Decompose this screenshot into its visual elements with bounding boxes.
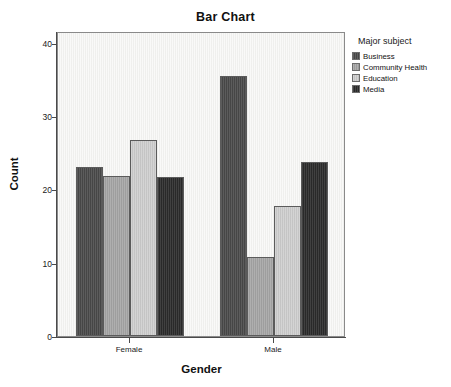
x-axis-tick-mark: [129, 338, 130, 343]
bar: [130, 140, 157, 336]
bar: [220, 76, 247, 336]
x-axis-tick-mark: [273, 338, 274, 343]
bar-texture: [302, 163, 327, 335]
bar: [301, 162, 328, 336]
y-axis-tick-label: 10: [26, 259, 52, 269]
y-axis-tick-label: 20: [26, 185, 52, 195]
legend-entry: Business: [352, 51, 451, 61]
y-axis-tick-label: 0: [26, 332, 52, 342]
legend-label: Community Health: [363, 63, 427, 72]
legend-swatch-icon: [352, 74, 360, 82]
legend: Major subject BusinessCommunity HealthEd…: [352, 36, 451, 95]
bar-texture: [275, 207, 300, 335]
legend-title: Major subject: [358, 36, 451, 46]
y-axis-tick-label: 40: [26, 39, 52, 49]
bar: [247, 257, 274, 336]
bar-texture: [77, 168, 102, 335]
y-axis-tick-mark: [52, 190, 57, 191]
bar: [76, 167, 103, 336]
bar-texture: [221, 77, 246, 335]
legend-swatch-icon: [352, 85, 360, 93]
legend-label: Media: [363, 85, 384, 94]
bar-chart: Bar Chart 010203040 Count FemaleMale Gen…: [0, 0, 451, 387]
x-axis-title: Gender: [57, 363, 346, 375]
y-axis-line: [56, 32, 57, 338]
legend-entry: Media: [352, 84, 451, 94]
legend-label: Education: [363, 74, 398, 83]
legend-entry: Community Health: [352, 62, 451, 72]
bar-texture: [131, 141, 156, 335]
bar-texture: [104, 177, 129, 335]
legend-swatch-texture: [353, 53, 359, 59]
legend-entries: BusinessCommunity HealthEducationMedia: [352, 51, 451, 94]
y-axis-tick-mark: [52, 44, 57, 45]
bar: [103, 176, 130, 336]
bar: [157, 177, 184, 336]
chart-title: Bar Chart: [0, 10, 451, 24]
legend-swatch-texture: [353, 75, 359, 81]
x-axis-tick-label: Female: [94, 345, 164, 354]
plot-area: [57, 32, 345, 337]
legend-entry: Education: [352, 73, 451, 83]
y-axis-tick-mark: [52, 264, 57, 265]
x-axis-line: [57, 337, 346, 338]
legend-label: Business: [363, 52, 395, 61]
y-axis-tick-label: 30: [26, 112, 52, 122]
bar-texture: [158, 178, 183, 335]
x-axis-tick-label: Male: [238, 345, 308, 354]
legend-swatch-icon: [352, 63, 360, 71]
legend-swatch-texture: [353, 64, 359, 70]
bar-texture: [248, 258, 273, 335]
y-axis-tick-mark: [52, 117, 57, 118]
y-axis-tick-labels: 010203040: [16, 0, 52, 387]
legend-swatch-texture: [353, 86, 359, 92]
legend-swatch-icon: [352, 52, 360, 60]
y-axis-title: Count: [8, 144, 20, 204]
bar: [274, 206, 301, 336]
